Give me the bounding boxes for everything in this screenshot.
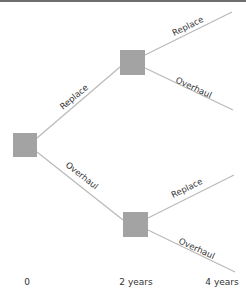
time-label-2-years: 2 years — [119, 277, 152, 287]
decision-tree: Replace Overhaul Replace Overhaul Replac… — [0, 0, 246, 297]
label-lower-replace: Replace — [169, 176, 204, 200]
time-label-0: 0 — [24, 277, 30, 287]
branch-root-replace — [37, 67, 120, 138]
label-root-overhaul: Overhaul — [64, 160, 101, 192]
branch-root-overhaul — [37, 152, 123, 220]
label-upper-overhaul: Overhaul — [174, 75, 213, 100]
time-label-4-years: 4 years — [205, 277, 238, 287]
decision-node-lower[interactable] — [123, 212, 148, 237]
decision-node-root[interactable] — [13, 133, 37, 157]
branch-upper-replace — [145, 12, 232, 55]
label-lower-overhaul: Overhaul — [177, 236, 216, 261]
decision-node-upper[interactable] — [120, 50, 145, 75]
